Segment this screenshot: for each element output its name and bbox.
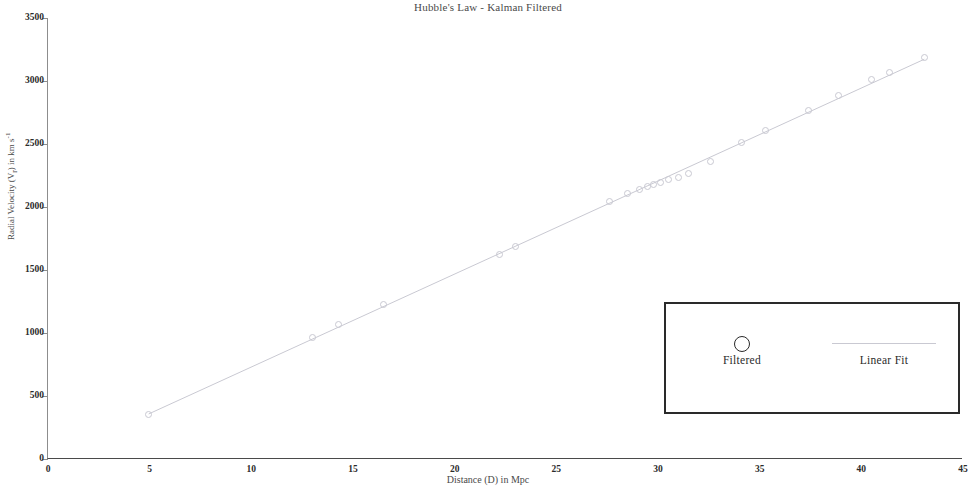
open-circle-icon <box>734 336 750 352</box>
x-tick-label: 10 <box>247 464 257 474</box>
data-point <box>512 243 519 250</box>
chart-figure: Hubble's Law - Kalman Filtered Radial Ve… <box>0 0 976 493</box>
y-axis-label-tail: ) in km s <box>6 138 16 170</box>
y-tick-label: 500 <box>30 390 44 400</box>
x-tick-label: 5 <box>147 464 152 474</box>
data-point <box>380 301 387 308</box>
y-tick-label: 1000 <box>25 327 44 337</box>
data-point <box>496 251 503 258</box>
data-point <box>738 139 745 146</box>
data-point <box>309 334 316 341</box>
data-point <box>624 190 631 197</box>
y-tick-label: 2500 <box>25 138 44 148</box>
data-point <box>886 69 893 76</box>
data-point <box>805 107 812 114</box>
y-axis-label: Radial Velocity (Vr) in km s-1 <box>4 133 19 240</box>
legend-label-filtered: Filtered <box>672 354 812 366</box>
x-tick-label: 15 <box>348 464 358 474</box>
y-axis-label-exponent: -1 <box>4 133 12 139</box>
data-point <box>675 174 682 181</box>
data-point <box>685 170 692 177</box>
y-axis-label-main: Radial Velocity (V <box>6 173 16 240</box>
y-tick-label: 2000 <box>25 201 44 211</box>
y-tick-label: 3000 <box>25 75 44 85</box>
data-point <box>335 321 342 328</box>
legend-symbol-wrap-linear-fit <box>814 332 954 354</box>
data-point <box>835 92 842 99</box>
chart-title: Hubble's Law - Kalman Filtered <box>0 1 976 13</box>
legend-entry-linear-fit[interactable]: Linear Fit <box>814 332 954 366</box>
data-point <box>665 176 672 183</box>
y-tick-label: 0 <box>39 453 44 463</box>
line-icon <box>832 343 936 344</box>
data-point <box>145 411 152 418</box>
data-point <box>657 179 664 186</box>
data-point <box>921 54 928 61</box>
x-tick-label: 0 <box>46 464 51 474</box>
y-axis-label-sub: r <box>10 170 19 173</box>
x-tick-label: 35 <box>755 464 765 474</box>
data-point <box>636 186 643 193</box>
data-point <box>606 198 613 205</box>
y-tick-label: 3500 <box>25 12 44 22</box>
x-axis-label: Distance (D) in Mpc <box>0 474 976 485</box>
legend-symbol-wrap-filtered <box>672 332 812 354</box>
legend-entry-filtered[interactable]: Filtered <box>672 332 812 366</box>
data-point <box>868 76 875 83</box>
x-tick-label: 30 <box>653 464 663 474</box>
data-point <box>762 127 769 134</box>
legend-label-linear-fit: Linear Fit <box>814 354 954 366</box>
x-tick-label: 20 <box>450 464 460 474</box>
x-tick-label: 25 <box>552 464 562 474</box>
x-tick-label: 40 <box>857 464 867 474</box>
chart-legend: Filtered Linear Fit <box>664 302 960 414</box>
data-point <box>707 158 714 165</box>
x-tick-label: 45 <box>958 464 968 474</box>
y-tick-label: 1500 <box>25 264 44 274</box>
